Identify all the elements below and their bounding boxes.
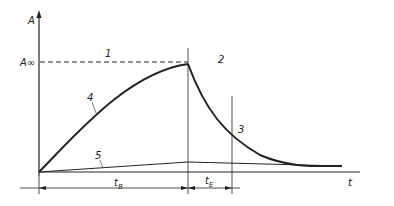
curve-label-2: 2 xyxy=(218,54,224,65)
arrow-icon xyxy=(181,186,188,190)
curve-label-1: 1 xyxy=(105,48,111,59)
label-5-leader xyxy=(100,160,103,168)
y-axis-arrow-icon xyxy=(37,10,42,18)
y-axis-label: A xyxy=(27,15,35,26)
label-4-leader xyxy=(92,102,96,113)
curve-5 xyxy=(39,162,342,172)
curve-label-3: 3 xyxy=(238,124,244,135)
x-axis-label: t xyxy=(348,177,353,188)
curve-label-4: 4 xyxy=(87,92,93,103)
interval-load-label: tB xyxy=(114,177,123,191)
curve-3-decay xyxy=(188,64,342,166)
a-infinity-label: A∞ xyxy=(19,57,35,68)
arrow-icon xyxy=(188,186,195,190)
arrow-icon xyxy=(39,186,46,190)
curve-4-rise xyxy=(39,64,188,172)
interval-unload-label: tE xyxy=(205,175,214,189)
curve-label-5: 5 xyxy=(95,150,101,161)
diagram-canvas: A A∞ t 1 2 3 4 5 tB tE xyxy=(0,0,394,206)
arrow-icon xyxy=(225,186,232,190)
